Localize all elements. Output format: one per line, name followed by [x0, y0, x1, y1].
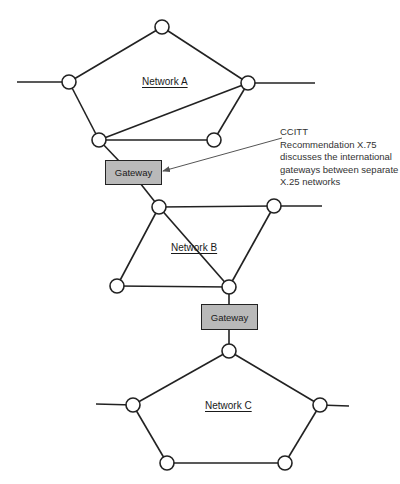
node — [267, 199, 281, 213]
node — [155, 20, 169, 34]
gateway-box: Gateway — [201, 304, 258, 330]
node — [313, 398, 327, 412]
node — [110, 279, 124, 293]
annotation-line: gateways between separate — [280, 164, 398, 177]
node — [126, 398, 140, 412]
annotation-line: Recommendation X.75 — [280, 139, 398, 152]
node — [207, 133, 221, 147]
node — [152, 200, 166, 214]
annotation-line: CCITT — [280, 126, 398, 139]
node — [222, 280, 236, 294]
node — [222, 344, 236, 358]
node — [241, 76, 255, 90]
node — [92, 133, 106, 147]
annotation-line: X.25 networks — [280, 176, 398, 189]
node — [160, 456, 174, 470]
network-c-label: Network C — [205, 400, 252, 411]
network-b-label: Network B — [171, 242, 217, 253]
node — [278, 456, 292, 470]
network-a-label: Network A — [142, 76, 188, 87]
node — [62, 75, 76, 89]
annotation-note: CCITT Recommendation X.75 discusses the … — [280, 126, 398, 189]
gateway-box: Gateway — [105, 160, 162, 185]
annotation-line: discusses the international — [280, 151, 398, 164]
